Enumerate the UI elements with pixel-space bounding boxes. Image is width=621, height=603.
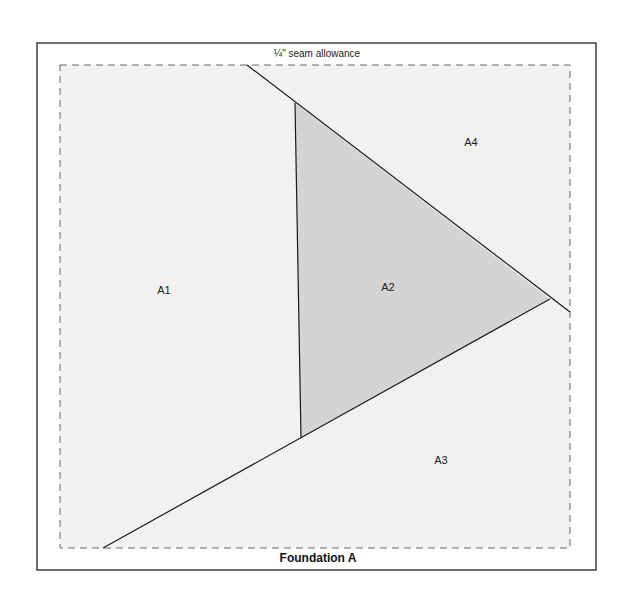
section-label-a4: A4: [464, 136, 477, 148]
section-label-a3: A3: [434, 454, 447, 466]
foundation-diagram: [0, 0, 621, 603]
foundation-title: Foundation A: [280, 551, 357, 565]
section-label-a1: A1: [157, 284, 170, 296]
seam-allowance-label: ¼" seam allowance: [274, 48, 360, 59]
section-label-a2: A2: [381, 281, 394, 293]
